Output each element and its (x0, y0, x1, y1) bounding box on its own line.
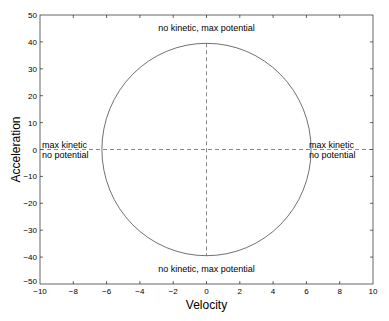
phase-portrait-chart: −10 −8 −6 −4 −2 0 2 4 6 8 10 50 40 30 20… (0, 0, 389, 321)
y-tick-label: 10 (28, 119, 37, 128)
annotation-right-line1: max kinetic (309, 140, 355, 150)
y-axis-title: Acceleration (9, 116, 23, 182)
y-tick-label: 30 (28, 65, 37, 74)
y-tick-labels: 50 40 30 20 10 0 −10 −20 −30 −40 −50 (23, 11, 37, 286)
x-tick-labels: −10 −8 −6 −4 −2 0 2 4 6 8 10 (33, 287, 378, 296)
annotation-left-line2: no potential (42, 150, 89, 160)
x-tick-label: 4 (271, 287, 276, 296)
x-tick-label: −6 (102, 287, 112, 296)
x-tick-label: 6 (304, 287, 309, 296)
y-tick-label: −40 (23, 253, 37, 262)
annotation-bottom: no kinetic, max potential (158, 264, 255, 274)
x-tick-label: −4 (135, 287, 145, 296)
annotation-top: no kinetic, max potential (158, 23, 255, 33)
y-tick-label: −30 (23, 226, 37, 235)
annotation-right-line2: no potential (309, 150, 356, 160)
x-tick-label: −2 (169, 287, 179, 296)
x-tick-label: −10 (33, 287, 47, 296)
x-tick-label: 10 (369, 287, 378, 296)
y-tick-label: 50 (28, 11, 37, 20)
x-tick-label: 0 (204, 287, 209, 296)
y-tick-label: 40 (28, 38, 37, 47)
annotation-left-line1: max kinetic (42, 140, 88, 150)
y-tick-label: −20 (23, 199, 37, 208)
x-tick-label: 2 (238, 287, 243, 296)
x-axis-title: Velocity (186, 298, 227, 312)
y-tick-label: 0 (33, 146, 38, 155)
x-tick-label: −8 (69, 287, 79, 296)
x-tick-label: 8 (337, 287, 342, 296)
y-tick-label: −10 (23, 172, 37, 181)
y-tick-label: −50 (23, 277, 37, 286)
y-tick-label: 20 (28, 92, 37, 101)
